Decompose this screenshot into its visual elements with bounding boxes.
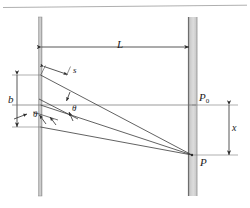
label-slit-separation-b: b bbox=[8, 94, 14, 105]
label-angle-theta-right: θ bbox=[72, 104, 76, 113]
angle-pointer-theta-left-a bbox=[14, 114, 27, 119]
label-point-P0-subscript: 0 bbox=[206, 97, 210, 105]
s-tie-right bbox=[67, 67, 71, 76]
label-point-P0: P0 bbox=[199, 92, 209, 105]
figure-canvas: L b s θ θ x P0 P bbox=[0, 0, 250, 208]
label-point-P0-letter: P bbox=[199, 91, 206, 103]
diagram-svg bbox=[0, 0, 250, 208]
ray-mid-slit-to-P bbox=[41, 105, 193, 155]
top-rule bbox=[3, 5, 247, 7]
label-point-P: P bbox=[200, 157, 207, 168]
label-screen-offset-x: x bbox=[232, 123, 236, 133]
point-P-marker bbox=[191, 154, 193, 156]
label-path-difference-s: s bbox=[73, 66, 77, 75]
observation-screen-bar bbox=[188, 17, 198, 196]
ray-top-slit-to-P bbox=[41, 75, 193, 155]
dimension-line-s bbox=[44, 67, 68, 75]
slit-barrier-bar bbox=[39, 17, 42, 196]
label-angle-theta-left: θ bbox=[33, 110, 37, 119]
angle-pointer-theta-right-upper bbox=[67, 92, 71, 101]
label-distance-L: L bbox=[117, 39, 123, 50]
ray-bottom-slit-to-P bbox=[41, 127, 193, 155]
